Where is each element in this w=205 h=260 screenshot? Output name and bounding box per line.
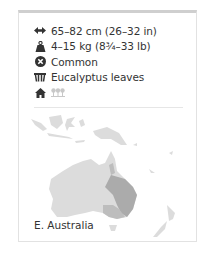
conservation-status-icon: [34, 56, 46, 68]
divider: [34, 107, 183, 108]
weight-icon: [34, 40, 46, 52]
fact-weight-text: 4–15 kg (8¾–33 lb): [51, 40, 151, 52]
fact-length: 65–82 cm (26–32 in): [34, 23, 186, 39]
fact-habitat: [34, 85, 186, 101]
fact-status: Common: [34, 54, 186, 70]
fact-length-text: 65–82 cm (26–32 in): [51, 25, 157, 37]
species-fact-card: 65–82 cm (26–32 in) 4–15 kg (8¾–33 lb) C…: [18, 10, 197, 242]
fact-status-text: Common: [51, 56, 98, 68]
range-label: E. Australia: [34, 219, 94, 231]
forest-habitat-icon: [51, 87, 65, 99]
fact-diet: Eucalyptus leaves: [34, 70, 186, 86]
length-arrows-icon: [34, 25, 46, 37]
habitat-home-icon: [34, 87, 46, 99]
fact-diet-text: Eucalyptus leaves: [51, 71, 144, 83]
fact-list: 65–82 cm (26–32 in) 4–15 kg (8¾–33 lb) C…: [34, 23, 186, 101]
fact-weight: 4–15 kg (8¾–33 lb): [34, 39, 186, 55]
diet-leaves-icon: [34, 71, 46, 83]
